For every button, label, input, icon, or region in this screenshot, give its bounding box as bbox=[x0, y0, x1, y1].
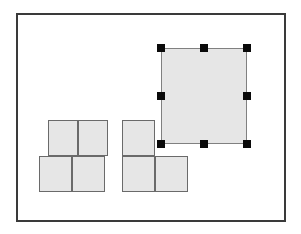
handle-ne-icon[interactable] bbox=[243, 44, 251, 52]
handle-nw-icon[interactable] bbox=[157, 44, 165, 52]
drawing-canvas[interactable] bbox=[0, 0, 301, 234]
handle-n-icon[interactable] bbox=[200, 44, 208, 52]
handle-sw-icon[interactable] bbox=[157, 140, 165, 148]
selection-handles bbox=[0, 0, 301, 234]
handle-w-icon[interactable] bbox=[157, 92, 165, 100]
handle-se-icon[interactable] bbox=[243, 140, 251, 148]
handle-e-icon[interactable] bbox=[243, 92, 251, 100]
handle-s-icon[interactable] bbox=[200, 140, 208, 148]
